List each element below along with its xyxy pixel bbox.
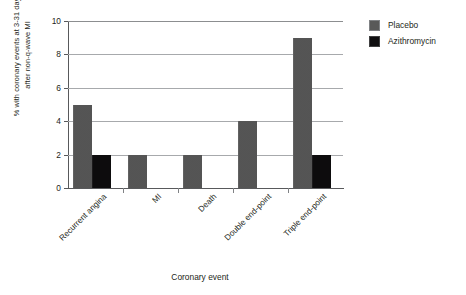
- bar-placebo-triple-end-point: [293, 38, 312, 188]
- x-tick-mark: [178, 188, 179, 193]
- x-category-label: Death: [196, 192, 218, 214]
- legend-swatch-icon: [369, 20, 380, 31]
- x-category-label: Double end-point: [222, 192, 272, 242]
- bar-azithromycin-triple-end-point: [312, 155, 331, 188]
- legend-item[interactable]: Placebo: [369, 17, 436, 33]
- x-tick-mark: [288, 188, 289, 193]
- y-tick-mark: [64, 188, 68, 189]
- x-category-label: Triple end-point: [281, 192, 327, 238]
- y-tick-label: 2: [56, 150, 61, 160]
- y-tick-label: 10: [52, 16, 61, 26]
- y-tick-label: 0: [56, 183, 61, 193]
- legend-label: Azithromycin: [388, 36, 436, 46]
- x-tick-mark: [123, 188, 124, 193]
- y-tick-label: 6: [56, 83, 61, 93]
- y-gridline: [68, 21, 343, 22]
- bar-placebo-double-end-point: [238, 121, 257, 188]
- bar-placebo-mi: [128, 155, 147, 188]
- legend-swatch-icon: [369, 36, 380, 47]
- x-axis-title: Coronary event: [0, 272, 400, 282]
- y-tick-label: 4: [56, 116, 61, 126]
- y-tick-mark: [64, 21, 68, 22]
- bar-placebo-death: [183, 155, 202, 188]
- y-tick-mark: [64, 88, 68, 89]
- x-category-label: MI: [150, 192, 163, 205]
- y-axis-title-line2: after non-q-wave MI: [23, 0, 34, 150]
- y-tick-mark: [64, 155, 68, 156]
- y-axis-title-line1: % with coronary events at 3-31 days: [12, 0, 21, 116]
- legend-item[interactable]: Azithromycin: [369, 33, 436, 49]
- x-axis-line: [68, 188, 344, 189]
- plot-area: 0246810: [68, 21, 343, 188]
- bar-azithromycin-recurrent-angina: [92, 155, 111, 188]
- x-tick-mark: [233, 188, 234, 193]
- bar-placebo-recurrent-angina: [73, 105, 92, 189]
- bar-chart-figure: % with coronary events at 3-31 days afte…: [0, 0, 466, 295]
- x-category-label: Recurrent angina: [57, 192, 108, 243]
- legend-label: Placebo: [388, 20, 418, 30]
- y-tick-label: 8: [56, 49, 61, 59]
- y-tick-mark: [64, 121, 68, 122]
- y-axis-title: % with coronary events at 3-31 days afte…: [12, 0, 46, 150]
- chart-legend: PlaceboAzithromycin: [369, 17, 436, 49]
- y-tick-mark: [64, 54, 68, 55]
